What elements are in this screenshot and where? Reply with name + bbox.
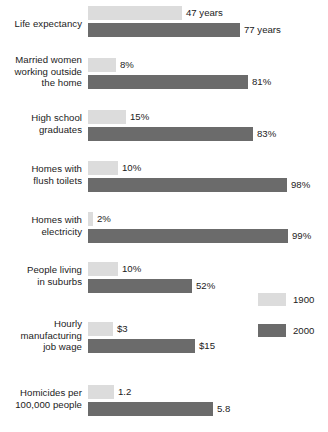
bar-value-label: 98%: [287, 178, 310, 192]
bar-2000: [88, 178, 287, 192]
bar-2000: [88, 279, 192, 293]
bar-stack: 10%98%: [88, 161, 328, 192]
category-label-line: Life expectancy: [0, 18, 82, 30]
bar-row: 47 years: [88, 6, 328, 20]
category-label: Homes withelectricity: [0, 214, 82, 237]
legend-label: 2000: [293, 324, 314, 337]
bar-chart: Life expectancy47 years77 yearsMarried w…: [0, 0, 328, 432]
category-label-line: Hourly: [0, 318, 82, 330]
bar-value-label: 99%: [288, 229, 311, 243]
bar-stack: 10%52%: [88, 262, 328, 293]
bar-value-label: 2%: [93, 212, 111, 226]
bar-value-label: 10%: [118, 161, 141, 175]
bar-value-label: 5.8: [213, 402, 230, 416]
bar-value-label: 52%: [192, 279, 215, 293]
bar-2000: [88, 23, 240, 37]
category-label-line: Homes with: [0, 214, 82, 226]
bar-value-label: 47 years: [182, 6, 223, 20]
bar-1900: [88, 58, 116, 72]
chart-legend: 19002000: [258, 293, 328, 355]
bar-stack: 8%81%: [88, 58, 328, 89]
bar-stack: 47 years77 years: [88, 6, 328, 37]
category-label-line: in suburbs: [0, 276, 82, 288]
bar-1900: [88, 110, 126, 124]
bar-value-label: 77 years: [240, 23, 281, 37]
bar-2000: [88, 229, 288, 243]
bar-row: 99%: [88, 229, 328, 243]
bar-2000: [88, 127, 253, 141]
bar-row: 98%: [88, 178, 328, 192]
bar-2000: [88, 402, 213, 416]
category-label: Hourlymanufacturingjob wage: [0, 318, 82, 353]
bar-stack: 15%83%: [88, 110, 328, 141]
bar-2000: [88, 339, 195, 353]
legend-item: 1900: [258, 293, 328, 306]
bar-value-label: 10%: [118, 262, 141, 276]
bar-row: 77 years: [88, 23, 328, 37]
bar-row: 15%: [88, 110, 328, 124]
bar-row: 10%: [88, 262, 328, 276]
category-label-line: Homes with: [0, 163, 82, 175]
bar-value-label: 15%: [126, 110, 149, 124]
bar-2000: [88, 75, 248, 89]
bar-value-label: 83%: [253, 127, 276, 141]
category-label-line: graduates: [0, 124, 82, 136]
bar-stack: 2%99%: [88, 212, 328, 243]
category-label-line: Married women: [0, 54, 82, 66]
bar-1900: [88, 322, 113, 336]
bar-1900: [88, 6, 182, 20]
legend-label: 1900: [293, 293, 314, 306]
bar-row: 8%: [88, 58, 328, 72]
category-label: High schoolgraduates: [0, 112, 82, 135]
bar-value-label: $15: [195, 339, 215, 353]
bar-value-label: $3: [113, 322, 128, 336]
category-label: Life expectancy: [0, 18, 82, 30]
category-label-line: 100,000 people: [0, 399, 82, 411]
category-label-line: Homicides per: [0, 387, 82, 399]
bar-row: 10%: [88, 161, 328, 175]
category-label-line: High school: [0, 112, 82, 124]
legend-swatch-1900: [258, 293, 286, 306]
category-label-line: electricity: [0, 226, 82, 238]
bar-row: 2%: [88, 212, 328, 226]
legend-swatch-2000: [258, 324, 286, 337]
category-label-line: job wage: [0, 341, 82, 353]
bar-value-label: 8%: [116, 58, 134, 72]
category-label: People livingin suburbs: [0, 264, 82, 287]
category-label: Homicides per100,000 people: [0, 387, 82, 410]
legend-item: 2000: [258, 324, 328, 337]
bar-value-label: 1.2: [114, 385, 131, 399]
bar-stack: 1.25.8: [88, 385, 328, 416]
bar-1900: [88, 385, 114, 399]
bar-row: 81%: [88, 75, 328, 89]
category-label-line: flush toilets: [0, 175, 82, 187]
bar-row: 1.2: [88, 385, 328, 399]
bar-1900: [88, 262, 118, 276]
bar-1900: [88, 161, 118, 175]
category-label-line: People living: [0, 264, 82, 276]
bar-row: 5.8: [88, 402, 328, 416]
bar-value-label: 81%: [248, 75, 271, 89]
category-label-line: manufacturing: [0, 330, 82, 342]
category-label-line: the home: [0, 77, 82, 89]
bar-row: 52%: [88, 279, 328, 293]
bar-row: 83%: [88, 127, 328, 141]
category-label-line: working outside: [0, 66, 82, 78]
category-label: Married womenworking outsidethe home: [0, 54, 82, 89]
category-label: Homes withflush toilets: [0, 163, 82, 186]
